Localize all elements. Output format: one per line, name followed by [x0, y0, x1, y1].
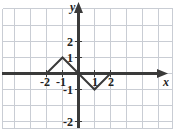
x-tick-label-pos2: 2: [108, 76, 114, 88]
graph-screenshot: -2 -1 1 2 2 1 -1 -2 y x: [0, 0, 175, 136]
x-axis-label: x: [163, 76, 169, 88]
y-tick-label-neg2: -2: [63, 116, 73, 128]
y-tick-label-neg1: -1: [63, 84, 73, 96]
grid-lines: [3, 9, 173, 129]
coordinate-plane-figure: [0, 0, 175, 136]
y-axis: [74, 2, 83, 128]
x-tick-label-pos1: 1: [92, 76, 98, 88]
x-tick-label-neg2: -2: [40, 76, 50, 88]
y-axis-label: y: [70, 1, 75, 13]
y-tick-label-pos2: 2: [67, 36, 73, 48]
y-axis-arrowhead: [74, 2, 83, 13]
y-tick-label-pos1: 1: [67, 52, 73, 64]
